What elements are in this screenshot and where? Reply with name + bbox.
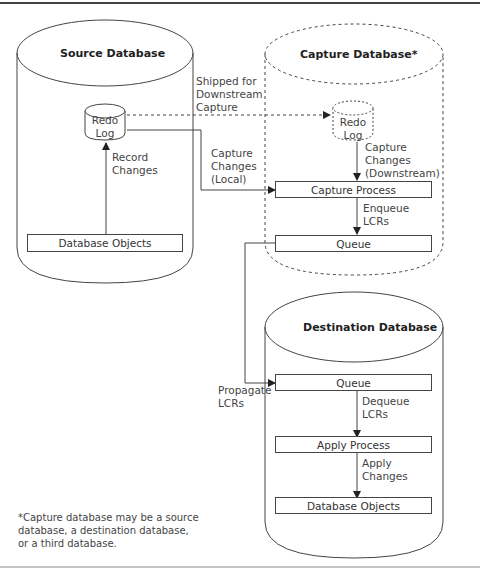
capture-redo-log-label: Redo Log: [333, 116, 373, 142]
record-changes-line2: Changes: [112, 164, 158, 177]
capture-downstream-label: Capture Changes (Downstream): [365, 141, 440, 180]
capture-database-title: Capture Database*: [300, 48, 417, 61]
record-changes-line1: Record: [112, 151, 158, 164]
propagate-line2: LCRs: [218, 397, 271, 410]
record-changes-label: Record Changes: [112, 151, 158, 177]
apply-changes-line2: Changes: [362, 470, 408, 483]
capture-local-label: Capture Changes (Local): [211, 147, 257, 186]
apply-process-box: Apply Process: [275, 436, 432, 453]
shipped-line2: Downstream: [196, 88, 263, 101]
shipped-label: Shipped for Downstream Capture: [196, 75, 263, 114]
dequeue-line2: LCRs: [362, 408, 409, 421]
destination-queue-box: Queue: [275, 374, 432, 391]
propagate-lcrs-label: Propagate LCRs: [218, 384, 271, 410]
capture-local-line1: Capture: [211, 147, 257, 160]
source-redo-log-label: Redo Log: [85, 114, 125, 140]
redo-line2: Log: [85, 127, 125, 140]
redo-line1: Redo: [85, 114, 125, 127]
capture-downstream-line2: Changes: [365, 154, 440, 167]
dequeue-line1: Dequeue: [362, 395, 409, 408]
enqueue-line1: Enqueue: [363, 202, 409, 215]
footnote-line3: or a third database.: [18, 537, 199, 550]
enqueue-line2: LCRs: [363, 215, 409, 228]
capture-queue-box: Queue: [275, 235, 432, 252]
destination-database-title: Destination Database: [303, 321, 437, 334]
enqueue-lcrs-label: Enqueue LCRs: [363, 202, 409, 228]
apply-changes-line1: Apply: [362, 457, 408, 470]
source-database-title: Source Database: [60, 47, 165, 60]
source-database-objects-box: Database Objects: [27, 234, 183, 252]
capture-downstream-line1: Capture: [365, 141, 440, 154]
destination-database-objects-box: Database Objects: [275, 497, 432, 514]
propagate-line1: Propagate: [218, 384, 271, 397]
capture-redo-line1: Redo: [333, 116, 373, 129]
capture-downstream-line3: (Downstream): [365, 167, 440, 180]
capture-local-line2: Changes: [211, 160, 257, 173]
shipped-line1: Shipped for: [196, 75, 263, 88]
footnote: *Capture database may be a source databa…: [18, 511, 199, 550]
shipped-line3: Capture: [196, 101, 263, 114]
dequeue-lcrs-label: Dequeue LCRs: [362, 395, 409, 421]
capture-process-box: Capture Process: [275, 181, 432, 198]
capture-local-line3: (Local): [211, 173, 257, 186]
footnote-line1: *Capture database may be a source: [18, 511, 199, 524]
footnote-line2: database, a destination database,: [18, 524, 199, 537]
apply-changes-label: Apply Changes: [362, 457, 408, 483]
